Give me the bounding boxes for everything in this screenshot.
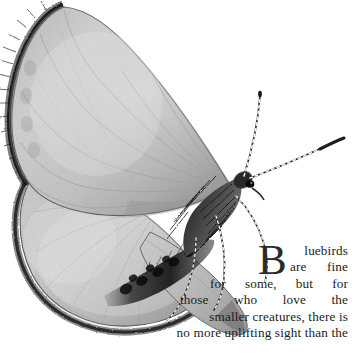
forewing [0, 0, 352, 240]
antennae [244, 91, 344, 178]
text-line-4: those who love the [140, 292, 348, 308]
eye [246, 180, 255, 188]
eye-highlight [250, 182, 252, 184]
text-line-6: no more uplifting sight than the [140, 325, 348, 341]
text-line-3: for some, but for [140, 276, 348, 292]
text-line-5: smaller creatures, there is [140, 309, 348, 325]
body-text-block: B luebirds are fine for some, but for th… [140, 243, 348, 341]
antenna-club-upper [258, 91, 262, 97]
antenna-upper [244, 91, 262, 176]
text-line-2: are fine [140, 259, 348, 275]
palps [252, 188, 264, 200]
antenna-club-right [320, 138, 344, 149]
text-line-1: luebirds [140, 243, 348, 259]
antenna-right [250, 138, 344, 178]
drop-cap: B [258, 241, 287, 279]
page-root: B luebirds are fine for some, but for th… [0, 0, 352, 364]
